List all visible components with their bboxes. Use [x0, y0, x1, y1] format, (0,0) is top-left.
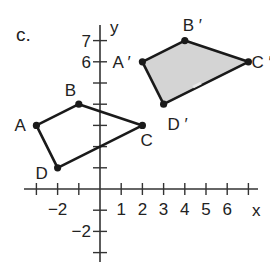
x-tick-label: 4	[180, 200, 189, 219]
vertex-label: D	[36, 164, 48, 183]
coordinate-plane-figure: c. −2123456 76−2 x y ABCDA ′B ′C ′D ′	[0, 0, 270, 270]
y-axis-label: y	[110, 18, 119, 37]
x-tick-label: 1	[116, 200, 125, 219]
vertex-point	[75, 101, 82, 108]
x-tick-label: −2	[48, 200, 67, 219]
y-tick-label: −2	[72, 222, 91, 241]
original-quadrilateral	[36, 104, 142, 168]
vertex-label: B	[65, 81, 76, 100]
vertex-label: A	[14, 116, 26, 135]
x-tick-label: 6	[222, 200, 231, 219]
image-quadrilateral	[142, 41, 248, 105]
vertex-point	[160, 101, 167, 108]
vertex-label: D ′	[168, 115, 188, 134]
vertex-point	[139, 58, 146, 65]
vertex-point	[54, 164, 61, 171]
part-label: c.	[16, 24, 31, 45]
x-tick-label: 5	[201, 200, 210, 219]
vertex-label: C ′	[251, 53, 270, 72]
x-tick-label: 3	[159, 200, 168, 219]
x-axis-tick-labels: −2123456	[48, 200, 232, 219]
x-axis-label: x	[252, 201, 261, 220]
y-tick-label: 6	[82, 53, 91, 72]
vertex-label: C	[140, 131, 152, 150]
vertex-point	[139, 122, 146, 129]
vertex-point	[33, 122, 40, 129]
y-axis-tick-labels: 76−2	[72, 32, 91, 242]
x-tick-label: 2	[138, 200, 147, 219]
y-tick-label: 7	[82, 32, 91, 51]
vertex-label: B ′	[183, 16, 202, 35]
vertex-label: A ′	[112, 53, 130, 72]
vertex-point	[181, 37, 188, 44]
